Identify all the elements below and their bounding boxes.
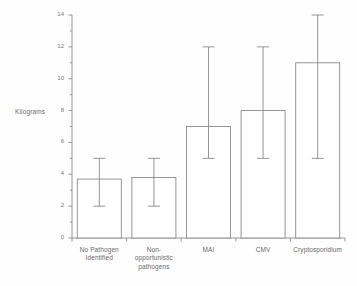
y-axis-tick-label: 12 bbox=[50, 43, 64, 49]
y-axis-tick-label: 10 bbox=[50, 75, 64, 81]
x-axis-category-label: MAI bbox=[181, 246, 236, 254]
y-axis-tick-label: 14 bbox=[50, 11, 64, 17]
y-axis-tick-label: 8 bbox=[50, 107, 64, 113]
y-axis-tick-label: 2 bbox=[50, 202, 64, 208]
x-axis-category-label: No Pathogen Identified bbox=[72, 246, 127, 263]
y-axis-tick-label: 0 bbox=[50, 234, 64, 240]
bar-chart: Kilograms 02468101214 No Pathogen Identi… bbox=[0, 0, 357, 286]
x-axis-category-label: Cryptosporidium bbox=[290, 246, 345, 254]
y-axis-tick-label: 6 bbox=[50, 138, 64, 144]
y-axis-tick-label: 4 bbox=[50, 170, 64, 176]
x-axis-category-label: CMV bbox=[236, 246, 291, 254]
x-axis-category-label: Non- opportunistic pathogens bbox=[127, 246, 182, 271]
